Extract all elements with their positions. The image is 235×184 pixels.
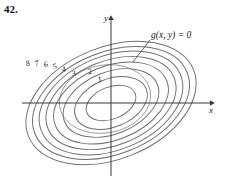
x-axis-label: x (209, 106, 213, 115)
problem-number: 42. (4, 3, 18, 15)
lagrange-contour-figure (0, 0, 235, 184)
y-axis-label: y (104, 14, 108, 23)
constraint-curve-label: g(x, y) = 0 (151, 31, 191, 41)
axes-group (22, 18, 212, 176)
